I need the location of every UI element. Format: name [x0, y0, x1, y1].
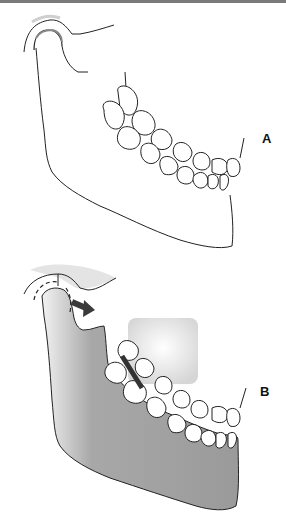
mandible-shaded-b — [0, 260, 286, 520]
lower-teeth-a — [117, 127, 228, 190]
panel-label-a: A — [262, 131, 271, 146]
mandible-outline-a — [0, 3, 286, 260]
arrow-right-down-icon — [72, 300, 95, 317]
panel-b: B — [0, 260, 286, 520]
panel-label-b: B — [260, 384, 269, 399]
panel-a: A — [0, 3, 286, 260]
